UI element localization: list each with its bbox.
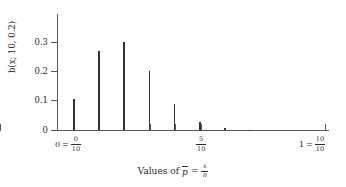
x-annotation-left: 0 = 0 10 [55, 136, 81, 153]
y-tick-text-0-3: 0.3 [34, 38, 48, 47]
x-annotation-right-equals: = [306, 140, 313, 149]
x-tick-spacer [0, 124, 1, 131]
x-annotation-mid: 5 10 [196, 136, 206, 153]
bar-x-0 [73, 99, 75, 130]
y-tick-0-1 [51, 100, 57, 101]
caption-denominator: n [203, 172, 207, 179]
bar-x-4 [174, 104, 176, 130]
y-tick-text-0-1: 0.1 [34, 96, 48, 105]
x-annotation-right-denominator: 10 [315, 146, 325, 154]
y-tick-0 [51, 130, 57, 131]
x-annotation-mid-numerator: 5 [198, 136, 204, 144]
x-annotation-left-equals: = [62, 140, 69, 149]
x-annotation-mid-denominator: 10 [196, 146, 206, 154]
caption-fraction: x n [201, 163, 208, 179]
bar-x-3 [149, 71, 151, 130]
x-annotation-right-numerator: 10 [315, 136, 325, 144]
x-annotation-right-fraction: 10 10 [315, 136, 325, 153]
caption-equals: = [191, 166, 199, 176]
x-tick-5 [201, 124, 202, 131]
bar-x-1 [98, 51, 100, 130]
y-tick-0-2 [51, 71, 57, 72]
bar-x-5 [199, 122, 201, 130]
x-axis-caption: Values of p = x n [0, 163, 346, 179]
bar-x-6 [224, 128, 226, 130]
x-annotation-right-value: 1 [299, 140, 304, 149]
x-annotation-right: 1 = 10 10 [299, 136, 325, 153]
y-tick-text-0-2: 0.2 [34, 67, 48, 76]
x-annotation-left-value: 0 [55, 140, 60, 149]
y-tick-text-0: 0 [43, 126, 48, 135]
bar-x-2 [123, 42, 125, 130]
caption-p-bar-symbol: p [182, 166, 188, 177]
x-annotation-left-denominator: 10 [71, 146, 81, 154]
x-annotation-mid-fraction: 5 10 [196, 136, 206, 153]
y-tick-0-3 [51, 42, 57, 43]
binomial-distribution-figure: b(x; 10, 0.2) 0 0.1 0.2 0.3 0 = 0 10 [0, 0, 346, 187]
caption-prefix: Values of [138, 166, 179, 176]
x-annotation-left-fraction: 0 10 [71, 136, 81, 153]
y-axis-title: b(x; 10, 0.2) [7, 3, 17, 91]
x-axis-line [57, 130, 329, 131]
y-axis-line [57, 14, 58, 131]
x-tick-10 [325, 124, 326, 131]
x-annotation-left-numerator: 0 [73, 136, 79, 144]
caption-numerator: x [203, 163, 207, 170]
